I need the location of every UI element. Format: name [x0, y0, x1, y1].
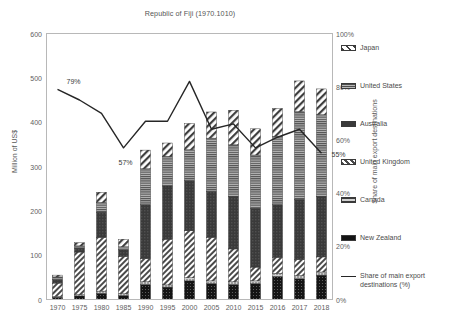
bars-group — [52, 81, 326, 300]
bar-segment — [294, 276, 304, 279]
legend-item-canada[interactable]: Canada — [341, 196, 385, 205]
bar-segment — [74, 248, 84, 252]
bar-segment — [118, 294, 128, 296]
bar-segment — [184, 281, 194, 300]
bar-segment — [96, 192, 106, 202]
bar-segment — [250, 208, 260, 267]
legend-label-new-zealand: New Zealand — [360, 234, 401, 243]
line-label-55: 55% — [331, 151, 345, 158]
bar-segment — [96, 237, 106, 291]
bar-segment — [228, 284, 238, 299]
bar-segment — [294, 199, 304, 259]
bar-segment — [118, 239, 128, 247]
bar-segment — [184, 278, 194, 281]
legend-swatch-share-line — [341, 273, 356, 279]
bar-segment — [184, 150, 194, 181]
bar-segment — [206, 237, 216, 280]
bar-segment — [162, 156, 172, 186]
bar-segment — [206, 281, 216, 284]
bar-segment — [96, 202, 106, 212]
line-label-79: 79% — [66, 78, 80, 85]
legend-item-japan[interactable]: Japan — [341, 44, 379, 53]
bar-segment — [162, 143, 172, 156]
legend-item-united-kingdom[interactable]: United Kingdom — [341, 158, 410, 167]
bar-segment — [52, 283, 62, 296]
bar-segment — [206, 191, 216, 237]
legend-label-japan: Japan — [360, 44, 379, 53]
bar-segment — [294, 112, 304, 200]
bar-segment — [272, 136, 282, 204]
bar-segment — [184, 231, 194, 278]
bar-segment — [74, 246, 84, 248]
bar-segment — [316, 115, 326, 197]
bar-segment — [294, 81, 304, 112]
bar-segment — [140, 150, 150, 169]
bar-segment — [272, 276, 282, 299]
bar-segment — [140, 169, 150, 205]
bar-segment — [272, 205, 282, 258]
bar-segment — [250, 267, 260, 281]
bar-segment — [250, 155, 260, 208]
legend-item-australia[interactable]: Australia — [341, 120, 387, 129]
bar-segment — [316, 196, 326, 257]
bar-segment — [294, 279, 304, 300]
legend-label-united-kingdom: United Kingdom — [360, 158, 410, 167]
legend-item-united-states[interactable]: United States — [341, 82, 402, 91]
bar-segment — [52, 275, 62, 277]
line-label-57: 57% — [118, 158, 132, 165]
legend-item-new-zealand[interactable]: New Zealand — [341, 234, 401, 243]
bar-segment — [52, 277, 62, 280]
legend-swatch-new-zealand — [341, 235, 356, 241]
legend-label-australia: Australia — [360, 120, 387, 129]
legend-swatch-japan — [341, 45, 356, 51]
chart-container: Republic of Fiji (1970.1010) Million of … — [0, 0, 457, 323]
bar-segment — [96, 293, 106, 299]
bar-segment — [272, 108, 282, 136]
bar-segment — [250, 284, 260, 300]
legend-swatch-canada — [341, 197, 356, 203]
bar-segment — [184, 181, 194, 231]
bar-segment — [206, 112, 216, 138]
bar-segment — [118, 296, 128, 300]
bar-segment — [162, 239, 172, 285]
legend-swatch-united-kingdom — [341, 159, 356, 165]
bar-segment — [162, 186, 172, 239]
bar-segment — [316, 89, 326, 115]
bar-segment — [118, 247, 128, 250]
legend-label-share-line: Share of main export destinations (%) — [360, 272, 454, 289]
legend-swatch-united-states — [341, 83, 356, 89]
legend-item-share-line[interactable]: Share of main export destinations (%) — [341, 272, 454, 289]
bar-segment — [206, 138, 216, 191]
bar-segment — [184, 124, 194, 150]
bar-segment — [316, 272, 326, 275]
bar-segment — [140, 284, 150, 299]
bar-segment — [52, 280, 62, 284]
bar-segment — [272, 273, 282, 276]
legend-label-united-states: United States — [360, 82, 402, 91]
bar-segment — [74, 243, 84, 246]
bar-segment — [140, 205, 150, 259]
bar-segment — [96, 291, 106, 293]
bar-segment — [294, 260, 304, 276]
bar-segment — [272, 257, 282, 273]
bar-segment — [316, 275, 326, 299]
legend-label-canada: Canada — [360, 196, 385, 205]
bar-segment — [74, 296, 84, 300]
bar-segment — [250, 129, 260, 155]
bar-segment — [228, 196, 238, 249]
bar-segment — [228, 249, 238, 282]
bar-segment — [228, 282, 238, 285]
bar-segment — [316, 257, 326, 272]
bar-segment — [250, 281, 260, 284]
legend-swatch-australia — [341, 121, 356, 127]
bar-segment — [74, 252, 84, 295]
bar-segment — [228, 145, 238, 196]
bar-segment — [118, 250, 128, 257]
bar-segment — [162, 285, 172, 287]
bar-segment — [140, 259, 150, 282]
bar-segment — [118, 257, 128, 294]
bar-segment — [96, 212, 106, 237]
bar-segment — [206, 284, 216, 300]
bar-segment — [140, 282, 150, 285]
bar-segment — [162, 287, 172, 299]
